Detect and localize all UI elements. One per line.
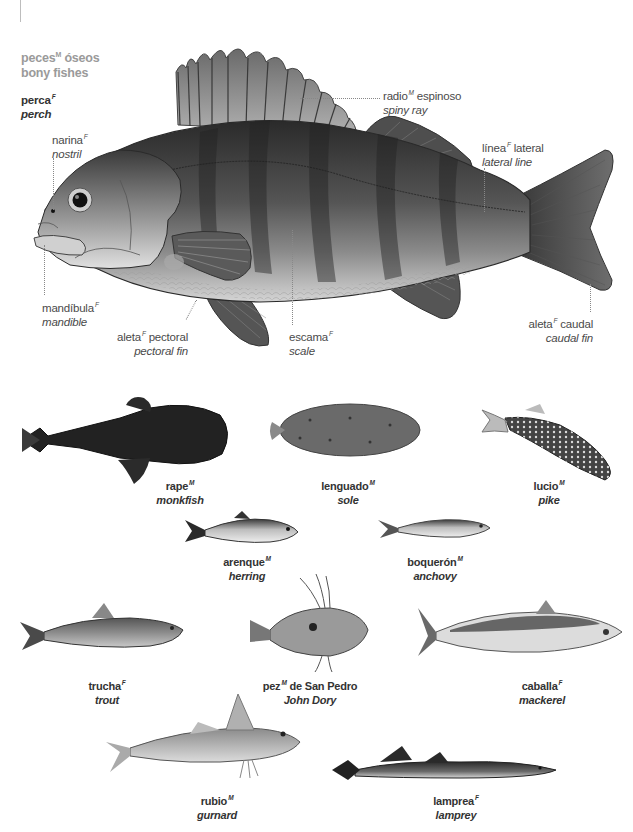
gender-mark: M	[281, 679, 286, 686]
gender-mark: F	[122, 679, 126, 686]
john-dory-illustration	[250, 574, 368, 672]
species-en: anchovy	[407, 569, 462, 583]
species-es: lucio	[534, 480, 559, 492]
label-trout: truchaF trout	[88, 676, 125, 707]
species-es: lenguado	[321, 480, 368, 492]
species-es: rubio	[201, 795, 228, 807]
label-gurnard: rubioM gurnard	[197, 791, 237, 822]
trout-illustration	[20, 603, 183, 650]
lamprey-illustration	[332, 746, 556, 780]
species-en: lamprey	[433, 808, 479, 822]
species-en: monkfish	[156, 493, 203, 507]
mackerel-illustration	[418, 600, 622, 656]
herring-illustration	[185, 511, 298, 542]
gender-mark: F	[475, 794, 479, 801]
label-lamprey: lampreaF lamprey	[433, 791, 479, 822]
pike-illustration	[482, 404, 611, 480]
gender-mark: M	[189, 479, 194, 486]
label-anchovy: boquerónM anchovy	[407, 552, 462, 583]
species-es: boquerón	[407, 556, 456, 568]
gender-mark: M	[457, 555, 462, 562]
label-monkfish: rapeM monkfish	[156, 476, 203, 507]
label-sole: lenguadoM sole	[321, 476, 375, 507]
species-en: gurnard	[197, 808, 237, 822]
species-es: trucha	[88, 680, 120, 692]
species-es: caballa	[522, 680, 558, 692]
species-es: pez	[263, 680, 281, 692]
label-pike: lucioM pike	[534, 476, 565, 507]
species-en: sole	[321, 493, 375, 507]
species-en: pike	[534, 493, 565, 507]
gender-mark: M	[370, 479, 375, 486]
species-en: John Dory	[263, 693, 358, 707]
species-es-rest: de San Pedro	[289, 680, 357, 692]
gender-mark: M	[228, 794, 233, 801]
species-en: trout	[88, 693, 125, 707]
species-illustrations	[0, 0, 633, 832]
species-es: lamprea	[433, 795, 474, 807]
label-john-dory: pezM de San Pedro John Dory	[263, 676, 358, 707]
species-es: arenque	[223, 556, 264, 568]
label-herring: arenqueM herring	[223, 552, 271, 583]
gender-mark: M	[266, 555, 271, 562]
label-mackerel: caballaF mackerel	[519, 676, 565, 707]
sole-illustration	[270, 404, 420, 456]
species-en: herring	[223, 569, 271, 583]
gender-mark: F	[559, 679, 563, 686]
gender-mark: M	[559, 479, 564, 486]
anchovy-illustration	[378, 520, 490, 538]
monkfish-illustration	[22, 397, 228, 484]
species-en: mackerel	[519, 693, 565, 707]
species-es: rape	[166, 480, 188, 492]
